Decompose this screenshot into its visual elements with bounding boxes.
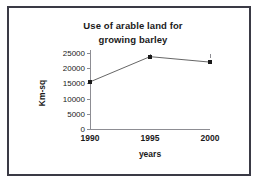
y-tick-label: 15000 [63,79,85,88]
series-line [90,47,210,133]
plot-area: 0 5000 10000 15000 20000 25000 1990 1995… [90,53,210,129]
chart-title-line-2: growing barley [35,33,231,47]
chart-title-line-1: Use of arable land for [35,19,231,33]
y-tick-label: 20000 [63,64,85,73]
y-axis-title: Km-sq [35,65,49,121]
chart-canvas: Use of arable land for growing barley Km… [9,8,249,174]
y-axis-title-text: Km-sq [37,80,47,106]
chart-border-frame: Use of arable land for growing barley Km… [7,6,251,176]
x-tick-label: 1995 [141,133,160,143]
chart-title: Use of arable land for growing barley [35,19,231,47]
x-tick-mark [210,54,211,58]
y-tick-label: 10000 [63,94,85,103]
data-point-marker [88,80,92,84]
y-tick-label: 25000 [63,49,85,58]
x-axis-title: years [90,149,210,159]
x-tick-label: 1990 [81,133,100,143]
x-tick-label: 2000 [201,133,220,143]
y-tick-label: 5000 [67,109,85,118]
data-point-marker [208,60,212,64]
data-point-marker [148,55,152,59]
